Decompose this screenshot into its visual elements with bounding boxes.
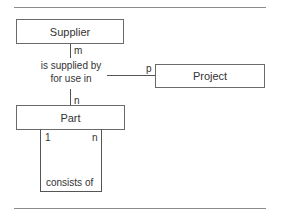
connector-relationship-part [70,89,71,105]
entity-project-label: Project [193,70,227,82]
entity-supplier: Supplier [16,19,124,44]
connector-supplier-relationship [70,44,71,58]
relationship-supply-label: is supplied by for use in [26,60,116,84]
entity-supplier-label: Supplier [50,26,90,38]
relationship-supply-label-line1: is supplied by [26,60,116,71]
relationship-consists-of-label: consists of [46,177,93,188]
top-rule [14,7,266,8]
entity-project: Project [155,64,265,88]
entity-part-label: Part [60,112,80,124]
bottom-rule [14,208,266,209]
cardinality-project: p [146,63,152,74]
entity-part: Part [16,105,125,130]
cardinality-supplier: m [74,45,82,56]
cardinality-consists-right: n [92,132,98,143]
connector-relationship-project [107,75,155,76]
relationship-supply-label-line2: for use in [26,73,116,84]
cardinality-consists-left: 1 [45,132,51,143]
